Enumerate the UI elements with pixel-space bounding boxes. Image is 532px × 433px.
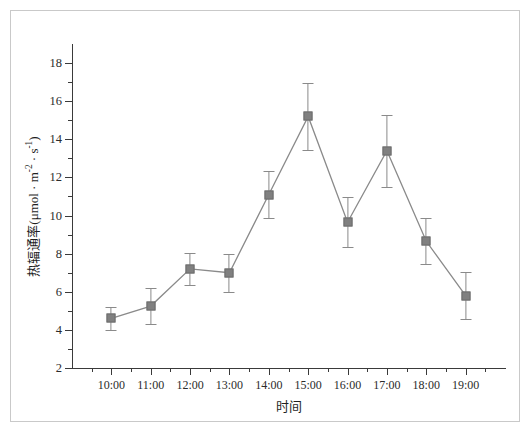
- x-tick-major: [308, 368, 309, 375]
- error-bar-cap: [263, 218, 274, 219]
- y-tick-major: [65, 63, 72, 64]
- y-tick-major: [65, 216, 72, 217]
- x-tick-label: 12:00: [176, 378, 203, 393]
- x-tick-minor: [446, 368, 447, 372]
- x-tick-minor: [249, 368, 250, 372]
- error-bar-cap: [303, 83, 314, 84]
- x-tick-minor: [210, 368, 211, 372]
- x-tick-minor: [485, 368, 486, 372]
- data-point-marker: [107, 314, 116, 323]
- y-tick-minor: [68, 349, 72, 350]
- y-tick-label: 14: [50, 132, 63, 147]
- error-bar-cap: [381, 187, 392, 188]
- x-tick-label: 10:00: [98, 378, 125, 393]
- x-tick-minor: [170, 368, 171, 372]
- error-bar-cap: [342, 247, 353, 248]
- y-tick-major: [65, 177, 72, 178]
- y-tick-label: 6: [56, 284, 62, 299]
- plot-area: 2468101214161810:0011:0012:0013:0014:001…: [72, 44, 505, 368]
- x-tick-major: [229, 368, 230, 375]
- error-bar-cap: [185, 285, 196, 286]
- x-tick-major: [111, 368, 112, 375]
- x-tick-major: [348, 368, 349, 375]
- y-tick-major: [65, 292, 72, 293]
- y-axis-label-text: 热辐通率(μmol · m-2 · s-1): [23, 136, 42, 276]
- x-tick-label: 15:00: [295, 378, 322, 393]
- error-bar-cap: [145, 288, 156, 289]
- data-point-marker: [422, 237, 431, 246]
- x-tick-minor: [367, 368, 368, 372]
- x-tick-major: [426, 368, 427, 375]
- error-bar-cap: [185, 253, 196, 254]
- x-tick-major: [387, 368, 388, 375]
- x-tick-minor: [289, 368, 290, 372]
- y-tick-label: 8: [56, 246, 62, 261]
- series-line-path: [72, 44, 505, 368]
- y-tick-major: [65, 254, 72, 255]
- y-tick-label: 18: [50, 56, 63, 71]
- error-bar-cap: [303, 150, 314, 151]
- x-tick-major: [466, 368, 467, 375]
- y-tick-minor: [68, 235, 72, 236]
- x-tick-label: 14:00: [255, 378, 282, 393]
- error-bar-cap: [421, 264, 432, 265]
- x-tick-label: 19:00: [452, 378, 479, 393]
- data-point-marker: [343, 218, 352, 227]
- x-tick-minor: [92, 368, 93, 372]
- y-tick-label: 16: [50, 94, 63, 109]
- x-tick-label: 11:00: [137, 378, 164, 393]
- data-point-marker: [264, 190, 273, 199]
- error-bar-cap: [224, 292, 235, 293]
- y-tick-label: 10: [50, 208, 63, 223]
- data-point-marker: [304, 112, 313, 121]
- error-bar-cap: [145, 324, 156, 325]
- y-tick-minor: [68, 196, 72, 197]
- y-tick-minor: [68, 120, 72, 121]
- data-point-marker: [225, 268, 234, 277]
- x-axis-label: 时间: [72, 396, 506, 415]
- x-tick-minor: [328, 368, 329, 372]
- x-tick-label: 16:00: [334, 378, 361, 393]
- y-tick-minor: [68, 82, 72, 83]
- y-tick-minor: [68, 158, 72, 159]
- x-tick-major: [269, 368, 270, 375]
- y-tick-minor: [68, 311, 72, 312]
- error-bar-cap: [106, 330, 117, 331]
- y-tick-label: 4: [56, 322, 62, 337]
- y-tick-major: [65, 101, 72, 102]
- y-tick-label: 2: [56, 361, 62, 376]
- error-bar-cap: [381, 115, 392, 116]
- error-bar-cap: [106, 307, 117, 308]
- x-tick-minor: [407, 368, 408, 372]
- y-tick-major: [65, 368, 72, 369]
- y-tick-minor: [68, 273, 72, 274]
- x-tick-minor: [131, 368, 132, 372]
- data-point-marker: [382, 146, 391, 155]
- error-bar-cap: [460, 319, 471, 320]
- x-tick-major: [151, 368, 152, 375]
- chart-figure: 热辐通率(μmol · m-2 · s-1) 2468101214161810:…: [0, 0, 532, 433]
- y-tick-major: [65, 330, 72, 331]
- x-tick-label: 17:00: [373, 378, 400, 393]
- error-bar-cap: [460, 272, 471, 273]
- x-tick-major: [190, 368, 191, 375]
- y-tick-major: [65, 139, 72, 140]
- error-bar-cap: [263, 171, 274, 172]
- x-tick-label: 18:00: [413, 378, 440, 393]
- data-point-marker: [186, 264, 195, 273]
- x-tick-label: 13:00: [216, 378, 243, 393]
- data-point-marker: [146, 302, 155, 311]
- error-bar-cap: [342, 197, 353, 198]
- data-point-marker: [461, 291, 470, 300]
- error-bar-cap: [421, 218, 432, 219]
- y-tick-label: 12: [50, 170, 63, 185]
- y-axis-label: 热辐通率(μmol · m-2 · s-1): [22, 44, 42, 368]
- error-bar-cap: [224, 254, 235, 255]
